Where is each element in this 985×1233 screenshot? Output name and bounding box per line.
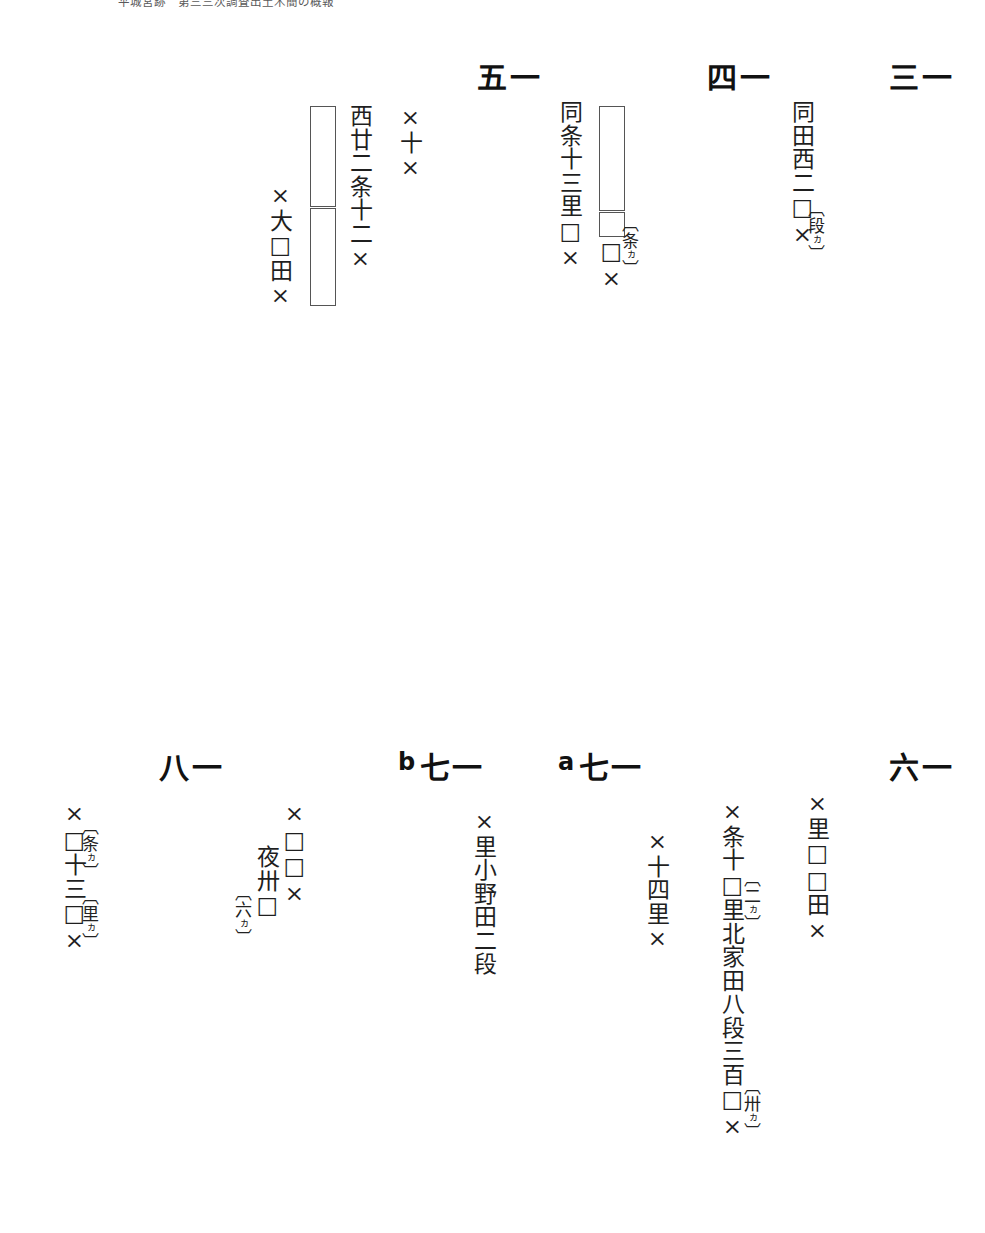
entry-16-column-2: ×条十□里北家田八段三百□×	[720, 798, 743, 1139]
entry-14-column-1: 同条十三里□×	[558, 100, 581, 271]
gloss-kana: ヵ	[83, 852, 96, 863]
entry-18-gloss-ri: 〔里ヵ〕	[80, 888, 97, 950]
entry-15-column-2: 西廿二条十二×	[348, 104, 371, 272]
entry-number-17b-kanji: 一七	[415, 752, 482, 782]
entry-13-gloss-dan: 〔段ヵ〕	[806, 200, 823, 262]
entry-17a-column-1: ×十四里×	[645, 828, 668, 952]
entry-number-14: 一四	[703, 62, 768, 93]
entry-18-column-2: 夜卅□	[255, 845, 278, 919]
entry-14-gloss-jou: 〔条ヵ〕	[620, 215, 637, 277]
entry-number-17a: 一七 a	[558, 752, 639, 782]
entry-number-17b: 一七 b	[398, 752, 480, 782]
gloss-char: 条	[619, 232, 639, 249]
lacuna-bar	[310, 208, 336, 306]
gloss-char: 卅	[741, 1095, 761, 1112]
entry-number-17a-suffix: a	[558, 750, 574, 776]
entry-number-15: 一五	[473, 62, 538, 93]
entry-16-column-1: ×里□□田×	[805, 790, 828, 943]
gloss-char: 二	[741, 887, 761, 904]
gloss-kana: ヵ	[809, 234, 822, 245]
page-header: 平城宮跡 第三三次調査出土木簡の概報	[118, 0, 518, 7]
entry-number-13: 一三	[885, 62, 950, 93]
gloss-kana: ヵ	[236, 918, 249, 929]
gloss-kana: ヵ	[83, 922, 96, 933]
lacuna-bar	[310, 106, 336, 207]
entry-16-gloss-sou: 〔卅ヵ〕	[742, 1078, 759, 1140]
entry-number-18: 一八	[155, 752, 220, 783]
gloss-char: 里	[79, 905, 99, 922]
gloss-char: 条	[79, 835, 99, 852]
entry-16-gloss-ni: 〔二ヵ〕	[742, 870, 759, 932]
entry-number-17b-suffix: b	[398, 750, 415, 776]
entry-15-column-3: ×大□田×	[268, 182, 291, 309]
entry-18-column-1: ×□□×	[282, 800, 305, 906]
entry-number-17a-kanji: 一七	[574, 752, 641, 782]
entry-15-column-1: ×十×	[398, 104, 421, 181]
gloss-char: 六	[232, 901, 252, 918]
gloss-char: 段	[805, 217, 825, 234]
gloss-kana: ヵ	[623, 249, 636, 260]
entry-number-16: 一六	[885, 752, 950, 783]
entry-17b-column-1: ×里小野田二段	[472, 808, 495, 976]
lacuna-bar	[599, 106, 625, 211]
entry-18-gloss-roku: 〔六ヵ〕	[233, 884, 250, 946]
entry-18-gloss-jou: 〔条ヵ〕	[80, 818, 97, 880]
gloss-kana: ヵ	[745, 904, 758, 915]
gloss-kana: ヵ	[745, 1112, 758, 1123]
